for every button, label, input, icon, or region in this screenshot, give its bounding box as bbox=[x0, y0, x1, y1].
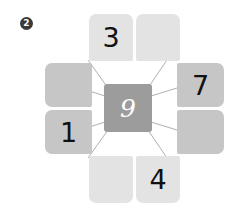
tile-top-left[interactable]: 3 bbox=[89, 14, 133, 61]
tile-right-upper[interactable]: 7 bbox=[177, 63, 224, 107]
tile-right-lower[interactable] bbox=[177, 110, 224, 154]
tile-left-upper[interactable] bbox=[45, 63, 92, 107]
center-value: 9 bbox=[120, 96, 136, 121]
tile-bottom-left[interactable] bbox=[89, 156, 133, 203]
tile-value: 7 bbox=[192, 72, 209, 99]
tile-left-lower[interactable]: 1 bbox=[45, 110, 92, 154]
puzzle-canvas: 2 3 1 7 4 bbox=[0, 0, 244, 209]
line-to-right-lower bbox=[151, 122, 177, 130]
tile-value: 4 bbox=[149, 166, 166, 193]
line-to-right-upper bbox=[151, 88, 177, 96]
tile-top-right[interactable] bbox=[136, 14, 180, 61]
tile-value: 1 bbox=[60, 119, 77, 146]
line-to-bottom-right bbox=[148, 130, 167, 158]
tile-center[interactable]: 9 bbox=[104, 84, 152, 132]
tile-value: 3 bbox=[102, 24, 119, 51]
tile-bottom-right[interactable]: 4 bbox=[136, 156, 180, 203]
